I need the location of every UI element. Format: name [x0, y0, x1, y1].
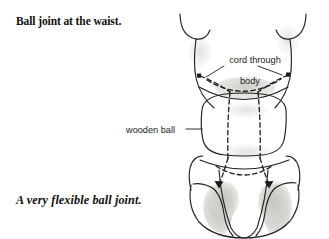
cord-through-body-label: cord through body — [219, 44, 281, 107]
figure-caption: A very flexible ball joint. — [16, 193, 142, 208]
page-title: Ball joint at the waist. — [16, 15, 121, 27]
figure-page: Ball joint at the waist. cord through bo… — [0, 0, 329, 239]
cord-anchor-left — [197, 74, 201, 78]
cord-label-line2: body — [219, 76, 281, 87]
cord-label-line1: cord through — [229, 55, 281, 65]
left-arm-stub — [180, 14, 210, 39]
hip-top-edge — [200, 160, 289, 169]
wooden-ball-label: wooden ball — [126, 125, 175, 135]
cord-anchor-right — [286, 73, 290, 77]
